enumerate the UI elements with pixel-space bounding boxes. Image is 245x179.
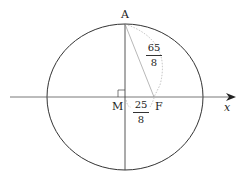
label-point-F: F — [155, 101, 163, 112]
ellipse-diagram — [0, 0, 245, 179]
right-angle-marker — [118, 90, 125, 97]
fraction-MF: 25 8 — [133, 100, 149, 125]
fraction-AF-denominator: 8 — [151, 57, 157, 68]
arc-MF-dashed — [126, 100, 131, 107]
fraction-AF-numerator: 65 — [148, 42, 161, 53]
fraction-bar — [146, 55, 162, 56]
fraction-bar — [133, 112, 149, 113]
arc-MF-dashed-right — [150, 98, 154, 107]
fraction-MF-denominator: 8 — [138, 114, 144, 125]
fraction-AF: 65 8 — [146, 43, 162, 68]
fraction-MF-numerator: 25 — [135, 99, 148, 110]
label-x-axis: x — [224, 102, 230, 113]
label-point-A: A — [121, 9, 129, 20]
label-point-M: M — [112, 101, 123, 112]
